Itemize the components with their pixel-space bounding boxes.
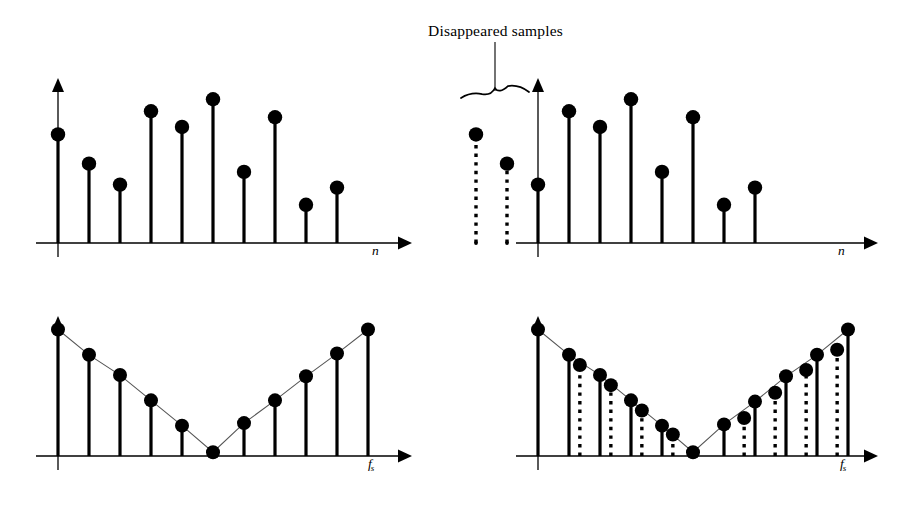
stem-head-dot — [748, 395, 762, 409]
stem-head-dot — [268, 393, 282, 407]
x-axis-arrowhead-bottom-left — [398, 450, 412, 463]
stem-head-dot — [51, 323, 65, 337]
stem-head-dot — [562, 348, 576, 362]
stem-group-bottom-right — [531, 323, 855, 460]
stem-head-dot — [635, 403, 649, 417]
stem-foot-dot — [505, 241, 509, 245]
stem-group-top-left — [51, 92, 344, 243]
brace-disappeared-samples — [461, 42, 529, 98]
spectrum-envelope-bottom-left — [58, 330, 368, 453]
stem-head-dot — [562, 104, 576, 118]
stem-head-dot — [330, 347, 344, 361]
stem-head-dot — [573, 358, 587, 372]
stem-head-dot — [624, 92, 638, 106]
stem-group-top-right — [469, 92, 762, 245]
panel-top-right-disappeared-sequence — [461, 42, 878, 257]
stem-head-dot — [748, 180, 762, 194]
stem-head-dot — [144, 393, 158, 407]
stem-head-dot — [330, 180, 344, 194]
stem-foot-dot — [474, 241, 478, 245]
stem-head-dot — [531, 323, 545, 337]
stem-head-dot — [768, 386, 782, 400]
stem-head-dot — [82, 156, 96, 170]
stem-head-dot — [799, 363, 813, 377]
x-axis-arrowhead-top-right — [864, 237, 878, 250]
stem-head-dot — [237, 165, 251, 179]
stem-head-dot — [666, 427, 680, 441]
panel-top-left-original-sequence — [36, 78, 412, 257]
stem-head-dot — [686, 445, 700, 459]
stem-head-dot — [717, 417, 731, 431]
stem-head-dot — [624, 393, 638, 407]
panel-bottom-left-original-spectrum — [36, 316, 412, 470]
stem-group-bottom-left — [51, 323, 375, 460]
stem-head-dot — [841, 323, 855, 337]
y-axis-arrowhead-top-left — [52, 78, 64, 92]
stem-head-dot — [655, 165, 669, 179]
stem-head-dot — [593, 120, 607, 134]
x-axis-arrowhead-top-left — [398, 237, 412, 250]
stem-head-dot — [51, 127, 65, 141]
stem-head-dot — [82, 348, 96, 362]
stem-head-dot — [299, 369, 313, 383]
stem-head-dot — [175, 419, 189, 433]
stem-head-dot — [531, 177, 545, 191]
stem-head-dot — [737, 411, 751, 425]
stem-head-dot — [361, 323, 375, 337]
stem-head-dot — [830, 343, 844, 357]
stem-head-dot — [779, 369, 793, 383]
stem-head-dot — [113, 177, 127, 191]
stem-head-dot — [655, 419, 669, 433]
stem-head-dot — [113, 368, 127, 382]
x-axis-arrowhead-bottom-right — [864, 450, 878, 463]
stem-head-dot — [593, 368, 607, 382]
y-axis-arrowhead-top-right — [532, 78, 544, 92]
stem-head-dot — [268, 110, 282, 124]
spectrum-envelope-bottom-right — [538, 330, 848, 453]
stem-head-dot — [469, 127, 483, 141]
sampling-figure — [0, 0, 917, 508]
stem-head-dot — [206, 92, 220, 106]
stem-head-dot — [144, 104, 158, 118]
stem-head-dot — [686, 110, 700, 124]
stem-head-dot — [299, 198, 313, 212]
stem-head-dot — [175, 120, 189, 134]
stem-head-dot — [237, 416, 251, 430]
stem-head-dot — [604, 378, 618, 392]
stem-head-dot — [206, 445, 220, 459]
stem-head-dot — [810, 348, 824, 362]
stem-head-dot — [500, 156, 514, 170]
panel-bottom-right-aliased-spectrum — [516, 316, 878, 470]
stem-head-dot — [717, 198, 731, 212]
